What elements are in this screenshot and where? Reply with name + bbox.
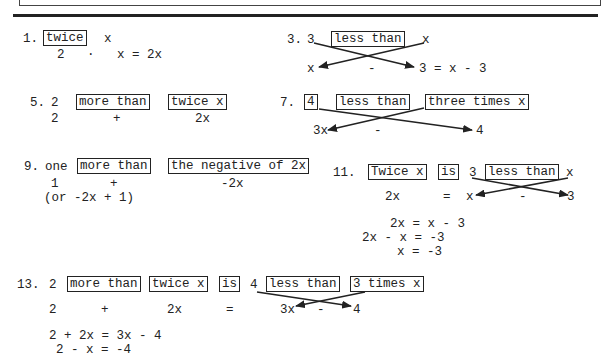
phrase-box: more than bbox=[76, 94, 150, 110]
phrase-box: is bbox=[438, 164, 459, 180]
translation-term: 4 bbox=[476, 124, 484, 138]
alternate-form: (or -2x + 1) bbox=[44, 191, 134, 205]
translation-term: x bbox=[307, 62, 315, 76]
translation-operator: = bbox=[226, 303, 234, 317]
phrase-word: x bbox=[566, 166, 574, 180]
phrase-box: more than bbox=[77, 158, 151, 174]
translation-term: 2x bbox=[195, 112, 210, 126]
translation-term: 3x bbox=[313, 124, 328, 138]
phrase-word: 3 bbox=[469, 166, 477, 180]
phrase-box: Twice x bbox=[368, 164, 427, 180]
phrase-box: twice x bbox=[168, 94, 227, 110]
phrase-box: more than bbox=[67, 276, 141, 292]
problem-number: 5. bbox=[30, 96, 45, 110]
phrase-box: less than bbox=[485, 164, 559, 180]
phrase-box: is bbox=[219, 276, 240, 292]
phrase-box: the negative of 2x bbox=[168, 158, 309, 174]
problem-number: 1. bbox=[23, 32, 38, 46]
problem-number: 11. bbox=[333, 166, 356, 180]
translation-operator: + bbox=[113, 112, 121, 126]
translation-operator: + bbox=[101, 303, 109, 317]
translation-operator: - bbox=[519, 190, 527, 204]
problem-number: 7. bbox=[280, 96, 295, 110]
phrase-box: three times x bbox=[425, 94, 529, 110]
translation-operator: - bbox=[374, 124, 382, 138]
phrase-box: less than bbox=[336, 94, 410, 110]
phrase-word: x bbox=[104, 32, 112, 46]
phrase-word: 3 bbox=[307, 33, 315, 47]
translation-term: 3 bbox=[567, 190, 575, 204]
phrase-box: 4 bbox=[304, 94, 318, 110]
phrase-box: less than bbox=[331, 31, 405, 47]
translation-term: x bbox=[466, 190, 474, 204]
translation-term: 4 bbox=[353, 303, 361, 317]
translation-term: 1 bbox=[51, 177, 59, 191]
translation-term: 3x bbox=[280, 303, 295, 317]
phrase-word: 4 bbox=[250, 278, 258, 292]
phrase-box: twice bbox=[43, 30, 87, 46]
translation-term: 2 bbox=[51, 112, 59, 126]
solution-step: 2x - x = -3 bbox=[362, 231, 445, 245]
translation-term: 2x bbox=[385, 190, 400, 204]
phrase-word: 2 bbox=[49, 278, 57, 292]
translation-operator: = bbox=[443, 190, 451, 204]
translation-operator: - bbox=[368, 62, 376, 76]
problem-number: 13. bbox=[17, 278, 40, 292]
phrase-box: less than bbox=[266, 276, 340, 292]
translation: 2 · x = 2x bbox=[57, 48, 162, 62]
translation-term: -2x bbox=[221, 177, 244, 191]
translation: 3 = x - 3 bbox=[419, 62, 487, 76]
translation-operator: - bbox=[317, 303, 325, 317]
phrase-word: one bbox=[45, 160, 68, 174]
phrase-word: 2 bbox=[51, 96, 59, 110]
solution-step: 2 - x = -4 bbox=[56, 343, 131, 356]
phrase-box: twice x bbox=[149, 276, 208, 292]
solution-step: 2 + 2x = 3x - 4 bbox=[49, 329, 162, 343]
translation-term: 2 bbox=[49, 303, 57, 317]
phrase-box: 3 times x bbox=[350, 276, 424, 292]
phrase-word: x bbox=[422, 33, 430, 47]
problem-number: 9. bbox=[24, 160, 39, 174]
solution-step: x = -3 bbox=[397, 245, 442, 259]
translation-operator: + bbox=[110, 177, 118, 191]
solution-step: 2x = x - 3 bbox=[390, 217, 465, 231]
problem-number: 3. bbox=[287, 33, 302, 47]
translation-term: 2x bbox=[167, 303, 182, 317]
